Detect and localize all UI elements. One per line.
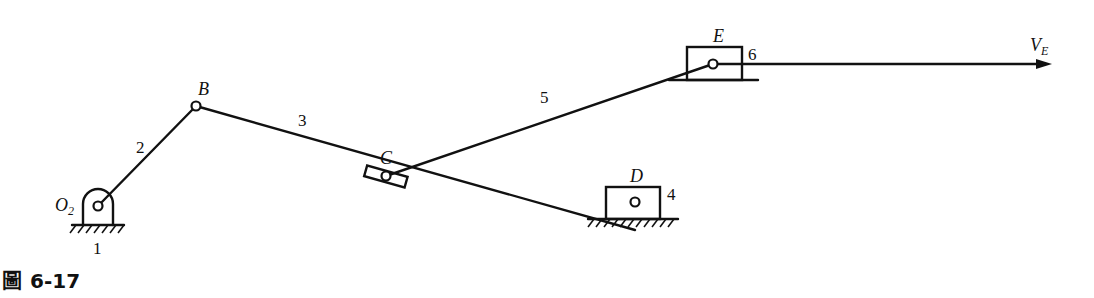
label-e: E [712,26,724,46]
label-c: C [380,148,393,168]
caption-prefix: 圖 [2,269,22,293]
joint-e [709,60,718,69]
joint-o2 [94,202,103,211]
link-2 [98,106,196,206]
link-number-6: 6 [748,45,757,64]
link-3 [196,106,635,230]
figure-caption: 圖 6-17 [2,269,80,293]
link-number-1: 1 [93,239,102,258]
link-number-3: 3 [298,111,307,130]
link-5 [386,64,713,176]
label-b: B [198,79,209,99]
velocity-arrow [713,59,1052,69]
mechanism-diagram: O2 B C D E VE 1 2 3 4 5 6 圖 6-17 [0,0,1094,298]
label-d: D [629,166,643,186]
joint-b [192,102,201,111]
label-ve: VE [1030,35,1049,58]
joint-c [382,172,391,181]
link-number-4: 4 [667,185,676,204]
label-o2: O2 [55,195,74,218]
link-number-5: 5 [540,88,549,107]
caption-number: 6-17 [30,269,80,293]
link-number-2: 2 [136,138,145,157]
joint-d [631,198,640,207]
